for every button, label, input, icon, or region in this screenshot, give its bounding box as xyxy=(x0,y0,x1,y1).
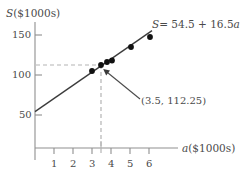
data-point xyxy=(104,59,110,65)
x-tick-label-6: 6 xyxy=(146,159,152,169)
data-point xyxy=(128,44,134,50)
y-axis-title: S($1000s) xyxy=(6,8,60,19)
x-axis-unit: ($1000s) xyxy=(188,142,235,154)
x-tick-label-3: 3 xyxy=(89,159,95,169)
regression-equation-label: S= 54.5 + 16.5a xyxy=(152,19,240,30)
equation-right-side: = 54.5 + 16.5 xyxy=(159,18,233,30)
x-tick-label-1: 1 xyxy=(51,159,57,169)
data-point xyxy=(89,68,95,74)
y-axis-unit: ($1000s) xyxy=(13,7,60,19)
y-axis-ticks xyxy=(35,35,42,115)
point-coordinate-annotation: (3.5, 112.25) xyxy=(141,96,206,106)
data-point xyxy=(147,34,153,40)
x-tick-label-2: 2 xyxy=(70,159,76,169)
guide-lines-group xyxy=(36,65,101,153)
x-tick-label-5: 5 xyxy=(127,159,133,169)
x-axis-title: a($1000s) xyxy=(182,143,235,154)
equation-variable: a xyxy=(234,18,240,30)
scatter-plot-figure: S($1000s) a($1000s) S= 54.5 + 16.5a (3.5… xyxy=(0,0,245,177)
annotation-arrow xyxy=(103,69,140,99)
y-tick-label-50: 50 xyxy=(19,110,32,120)
data-point xyxy=(109,58,115,64)
axes-group xyxy=(35,22,178,160)
y-tick-label-100: 100 xyxy=(12,70,31,80)
data-point-highlighted xyxy=(98,62,104,68)
y-tick-label-150: 150 xyxy=(12,30,31,40)
x-tick-label-4: 4 xyxy=(108,159,114,169)
